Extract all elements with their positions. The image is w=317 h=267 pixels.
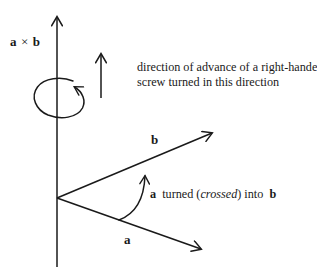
turn-arc-arrow	[119, 176, 145, 220]
screw-caption-line-2: screw turned in this direction	[137, 75, 317, 90]
curved-arrow-icon	[119, 176, 145, 220]
turn-caption-crossed-text: crossed	[200, 187, 237, 201]
cross-product-operand-a: a	[10, 34, 17, 49]
turn-caption-into-text: ) into	[237, 187, 263, 201]
circular-rotation-arrow-icon	[34, 78, 84, 117]
turn-caption: a turned (crossed) into b	[150, 187, 276, 202]
cross-product-operand-b: b	[33, 34, 41, 49]
cross-product-operator-icon: ×	[17, 34, 33, 49]
vector-cross-product-figure: a×b b a direction of advance of a right-…	[0, 0, 317, 267]
screw-caption-line-1: direction of advance of a right-handed	[137, 60, 317, 75]
figure-canvas	[0, 0, 317, 267]
rotation-arc	[34, 78, 84, 117]
turn-caption-turned-text: turned (	[162, 187, 200, 201]
turn-caption-vector-b: b	[269, 187, 276, 201]
cross-product-label: a×b	[10, 34, 41, 50]
screw-direction-caption: direction of advance of a right-handed s…	[137, 60, 317, 90]
vector-b-label: b	[151, 132, 158, 148]
vector-a-label: a	[124, 232, 131, 248]
